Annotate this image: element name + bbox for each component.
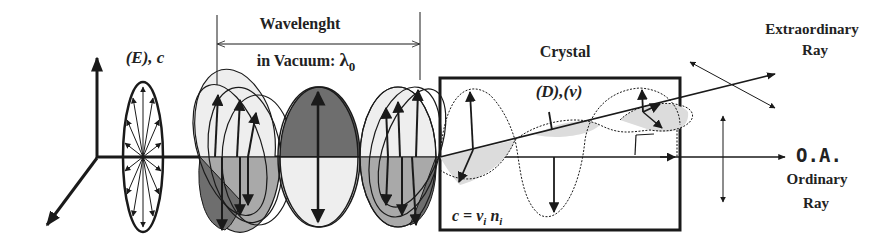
extraordinary-ray-label-line2: Ray [802,42,828,58]
speed-relation-label: c = νi ni [452,207,503,227]
ordinary-ray-label-line1: Ordinary [787,171,848,187]
depth-axis-arrow [47,158,97,225]
extraordinary-ray-arrow [440,74,775,157]
extraordinary-ray-label-line1: Extraordinary [765,21,859,37]
speed-n-subscript: i [499,215,503,227]
crystal-wave-oscillations [440,74,775,217]
in-vacuum-text: in Vacuum: [257,52,340,69]
ordinary-ray-label-line2: Ray [803,195,829,211]
polarization-ellipse-group-right [358,80,459,227]
lambda-subscript: 0 [349,59,356,74]
birefringence-diagram: Wavelenght in Vacuum: λ0 (E), c Crystal … [0,0,891,240]
extraordinary-polarization-arrow [690,62,775,108]
wavelength-label-line2: in Vacuum: λ0 [257,49,356,74]
crystal-label: Crystal [540,43,591,61]
speed-n-text: n [486,207,499,224]
polarization-ellipse-group-left [179,69,294,232]
displacement-frequency-label: (D),(ν) [536,82,583,101]
incident-field-label: (E), c [126,48,165,67]
speed-c-text: c = [452,207,476,224]
wavelength-label-line1: Wavelenght [260,15,342,33]
coordinate-axes [47,58,97,225]
polarization-ellipse-center [278,87,360,227]
unpolarized-field-ellipse [123,82,163,232]
optic-axis-label: O.A. [796,144,842,166]
